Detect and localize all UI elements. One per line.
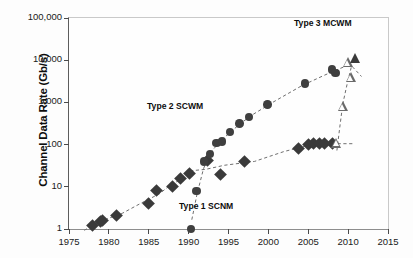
y-tick-label: 10,000: [33, 53, 62, 64]
x-tick-mark: [228, 229, 229, 234]
x-tick-label: 1995: [211, 236, 247, 247]
data-point-type-2-scwm-8: [245, 113, 254, 122]
y-tick-label: 100,000: [28, 11, 62, 22]
data-point-type-1-scnm-5: [150, 185, 163, 198]
x-tick-mark: [69, 229, 70, 234]
data-point-type-1-scnm-11: [238, 155, 251, 168]
y-tick-mark: [64, 18, 69, 19]
annotation-type-2-scwm: Type 2 SCWM: [147, 101, 203, 111]
x-tick-mark: [268, 229, 269, 234]
x-tick-label: 2005: [290, 236, 326, 247]
x-tick-mark: [308, 229, 309, 234]
trendlines-layer: [69, 18, 388, 229]
y-tick-label: 1,000: [38, 95, 62, 106]
y-tick-label: 10: [51, 180, 62, 191]
data-point-type-2-scwm-2: [200, 157, 209, 166]
y-tick-mark: [64, 144, 69, 145]
x-tick-label: 1985: [131, 236, 167, 247]
y-tick-label: 1: [57, 222, 62, 233]
data-point-type-3-mcwm-4: [350, 53, 360, 63]
data-point-type-2-scwm-3: [206, 150, 215, 159]
x-tick-mark: [148, 229, 149, 234]
annotation-type-1-scnm: Type 1 SCNM: [179, 201, 233, 211]
data-point-type-1-scnm-4: [142, 197, 155, 210]
x-tick-label: 2010: [330, 236, 366, 247]
y-tick-mark: [64, 60, 69, 61]
data-point-type-3-mcwm-1: [338, 101, 348, 111]
data-point-type-2-scwm-12: [331, 69, 340, 78]
annotation-type-3-mcwm: Type 3 MCWM: [294, 18, 352, 28]
x-tick-label: 2000: [250, 236, 286, 247]
trendline-type-1-scnm: [84, 144, 354, 231]
chart-figure: Channel Data Rate (Gb/s) 1101001,00010,0…: [0, 0, 413, 258]
y-tick-mark: [64, 186, 69, 187]
x-tick-mark: [108, 229, 109, 234]
data-point-type-2-scwm-10: [301, 79, 310, 88]
plot-area: 1101001,00010,000100,000 197519801985199…: [68, 17, 389, 230]
data-point-type-1-scnm-3: [110, 209, 123, 222]
data-point-type-2-scwm-0: [187, 225, 196, 234]
y-tick-mark: [64, 102, 69, 103]
data-point-type-1-scnm-10: [214, 168, 227, 181]
data-point-type-2-scwm-7: [235, 119, 244, 128]
y-tick-label: 100: [46, 138, 62, 149]
data-point-type-3-mcwm-0: [331, 138, 341, 148]
x-tick-label: 1980: [91, 236, 127, 247]
data-point-type-2-scwm-5: [218, 137, 227, 146]
x-tick-label: 1975: [51, 236, 87, 247]
data-point-type-3-mcwm-3: [346, 72, 356, 82]
x-tick-mark: [388, 229, 389, 234]
x-tick-label: 1990: [171, 236, 207, 247]
data-point-type-2-scwm-1: [192, 187, 201, 196]
data-point-type-2-scwm-9: [263, 100, 272, 109]
x-tick-label: 2015: [370, 236, 406, 247]
x-tick-mark: [348, 229, 349, 234]
data-point-type-2-scwm-6: [226, 128, 235, 137]
